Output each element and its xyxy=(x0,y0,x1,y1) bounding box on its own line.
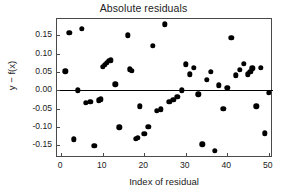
data-point xyxy=(250,66,255,71)
data-point xyxy=(254,104,259,109)
x-tick-mark xyxy=(144,153,145,156)
x-tick-mark xyxy=(227,153,228,156)
data-point xyxy=(88,99,93,104)
x-tick-label: 40 xyxy=(211,160,241,170)
data-point xyxy=(142,131,147,136)
data-point xyxy=(117,125,122,130)
data-point xyxy=(204,77,209,82)
y-tick-mark xyxy=(57,54,60,55)
x-tick-mark xyxy=(61,153,62,156)
data-point xyxy=(220,106,225,111)
data-point xyxy=(112,81,117,86)
data-point xyxy=(229,35,234,40)
x-tick-label: 50 xyxy=(253,160,283,170)
y-tick-label: 0.00 xyxy=(22,84,52,94)
data-point xyxy=(67,30,72,35)
data-point xyxy=(158,107,163,112)
y-tick-mark xyxy=(57,127,60,128)
data-point xyxy=(208,69,213,74)
data-point xyxy=(129,68,134,73)
y-tick-mark xyxy=(57,90,60,91)
data-point xyxy=(137,104,142,109)
y-tick-label: 0.10 xyxy=(22,48,52,58)
y-axis-tick-labels: 0.150.100.050.00-0.05-0.10-0.15 xyxy=(18,18,52,157)
data-point xyxy=(146,124,151,129)
data-point xyxy=(237,67,242,72)
data-point xyxy=(63,69,68,74)
y-tick-mark xyxy=(57,145,60,146)
data-point xyxy=(187,72,192,77)
y-tick-mark xyxy=(57,35,60,36)
data-point xyxy=(71,137,76,142)
x-tick-label: 10 xyxy=(87,160,117,170)
data-point xyxy=(258,65,263,70)
y-tick-mark xyxy=(57,109,60,110)
data-point xyxy=(191,65,196,70)
data-point xyxy=(79,26,84,31)
data-point xyxy=(241,61,246,66)
y-tick-label: 0.05 xyxy=(22,66,52,76)
data-point xyxy=(216,83,221,88)
data-point xyxy=(262,131,267,136)
data-point xyxy=(200,142,205,147)
data-point xyxy=(150,43,155,48)
x-tick-label: 30 xyxy=(170,160,200,170)
scatter-points-layer xyxy=(57,19,271,156)
x-axis-tick-labels: 01020304050 xyxy=(56,160,272,174)
data-point xyxy=(196,92,201,97)
x-tick-mark xyxy=(269,153,270,156)
x-tick-label: 0 xyxy=(45,160,75,170)
y-tick-label: -0.05 xyxy=(22,103,52,113)
data-point xyxy=(233,73,238,78)
y-axis-label: y − f(x) xyxy=(6,46,17,106)
x-axis-label: Index of residual xyxy=(56,176,272,187)
x-tick-mark xyxy=(103,153,104,156)
data-point xyxy=(175,94,180,99)
data-point xyxy=(125,33,130,38)
data-point xyxy=(108,58,113,63)
data-point xyxy=(135,135,140,140)
y-tick-label: 0.15 xyxy=(22,29,52,39)
residual-plot-figure: Absolute residuals y − f(x) 0.150.100.05… xyxy=(0,0,287,194)
y-tick-label: -0.15 xyxy=(22,139,52,149)
y-tick-mark xyxy=(57,72,60,73)
x-tick-label: 20 xyxy=(128,160,158,170)
data-point xyxy=(183,62,188,67)
data-point xyxy=(162,21,167,26)
data-point xyxy=(98,96,103,101)
zero-reference-line xyxy=(57,90,273,91)
data-point xyxy=(92,143,97,148)
y-tick-label: -0.10 xyxy=(22,121,52,131)
x-tick-mark xyxy=(186,153,187,156)
data-point xyxy=(212,148,217,153)
plot-area xyxy=(56,18,272,157)
chart-title: Absolute residuals xyxy=(0,2,287,14)
